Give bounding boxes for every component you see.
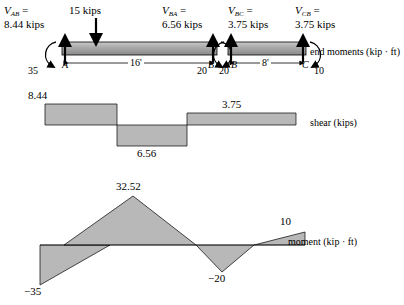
reaction-symbol-vba: V [162, 4, 169, 16]
end-moment-label-20-right: 20 [219, 66, 229, 77]
moment-label-10: 10 [280, 216, 291, 228]
reaction-label-vab: VAB = [4, 5, 28, 17]
shear-label-844: 8.44 [28, 90, 47, 102]
reaction-value-vab: 8.44 kips [4, 19, 44, 31]
reaction-value-vcb: 3.75 kips [295, 19, 335, 31]
span-label-bc: 8' [260, 58, 271, 69]
end-moment-label-20-left: 20 [197, 66, 207, 77]
reaction-sub-vba: BA [169, 10, 178, 18]
moment-label-3252: 32.52 [116, 181, 141, 193]
reaction-label-vbc: VBC = [228, 5, 253, 17]
figure-container: VAB = 8.44 kips 15 kips VBA = 6.56 kips … [0, 0, 404, 305]
span-label-ab: 16' [128, 58, 144, 69]
shear-diagram-shape [45, 104, 296, 146]
moment-label-neg35: −35 [24, 286, 41, 298]
reaction-symbol-vab: V [4, 4, 11, 16]
end-moment-label-10: 10 [314, 66, 324, 77]
node-label-b-left: B [208, 60, 214, 71]
node-label-c: C [302, 60, 309, 71]
reaction-label-vba: VBA = [162, 5, 186, 17]
reaction-symbol-vcb: V [295, 4, 302, 16]
point-load-label: 15 kips [69, 5, 101, 17]
moment-caption: moment (kip · ft) [288, 237, 357, 248]
moment-label-neg20: −20 [208, 273, 225, 285]
moment-arrow-a [46, 42, 56, 66]
reaction-sub-vbc: BC [235, 10, 244, 18]
moment-diagram-shape [40, 196, 305, 285]
beam-span-bc [228, 42, 306, 55]
end-moment-label-35: 35 [28, 66, 38, 77]
reaction-value-vbc: 3.75 kips [228, 19, 268, 31]
reaction-symbol-vbc: V [228, 4, 235, 16]
beam-span-ab [62, 42, 217, 55]
shear-caption: shear (kips) [310, 118, 357, 129]
reaction-value-vba: 6.56 kips [162, 19, 202, 31]
node-label-a: A [62, 60, 68, 71]
shear-label-656: 6.56 [137, 148, 156, 160]
reaction-sub-vab: AB [11, 10, 20, 18]
reaction-label-vcb: VCB = [295, 5, 320, 17]
node-label-b-right: B [231, 60, 237, 71]
end-moments-caption: end moments (kip · ft) [310, 47, 400, 58]
shear-label-375: 3.75 [222, 99, 241, 111]
reaction-sub-vcb: CB [302, 10, 311, 18]
